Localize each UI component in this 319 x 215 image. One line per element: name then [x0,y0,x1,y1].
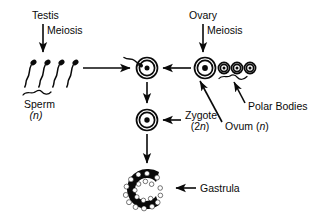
gastrula-label: Gastrula [200,182,240,194]
ovum-nucleus [202,65,208,71]
ovum-label-text: Ovum ( [225,120,260,132]
meiosis-female-label: Meiosis [207,24,243,36]
sperm-ploidy-label: (n) [30,109,43,121]
sperm-brace [23,90,51,95]
ovum-label: Ovum (n) [225,120,269,132]
sperm-tail [25,65,31,87]
polar-body-nucleus [236,67,239,70]
gastrula-body [127,169,159,209]
polar-body-nucleus [223,67,226,70]
polar-body [218,62,229,73]
sperm-tail [39,65,45,87]
sperm-cell [67,59,80,87]
polar-bodies-label-arrow [234,82,245,103]
life-cycle-diagram: Testis Meiosis [0,0,319,215]
polar-bodies-label: Polar Bodies [248,100,308,112]
ovary-label: Ovary [189,9,218,21]
diagram-canvas: Testis Meiosis [0,0,319,215]
entering-sperm-tail [124,58,140,65]
sperm-cell [39,59,52,87]
sperm-cluster [25,59,80,87]
polar-body [231,62,242,73]
polar-body [244,62,255,73]
sperm-cell [53,59,66,87]
ovum-cell [195,58,216,79]
sperm-cell [25,59,38,87]
polar-bodies-brace [219,75,247,80]
testis-label: Testis [32,9,59,21]
zygote-ploidy-label: (2n) [191,120,210,132]
zygote-nucleus [144,117,149,122]
zygote-cell [137,110,158,131]
polar-body-nucleus [249,67,252,70]
polar-bodies-group [218,62,255,73]
sperm-tail [67,65,73,87]
meiosis-male-label: Meiosis [47,24,83,36]
gastrula [123,169,162,211]
fertilization-cell-nucleus [145,66,150,71]
sperm-tail [53,65,59,87]
